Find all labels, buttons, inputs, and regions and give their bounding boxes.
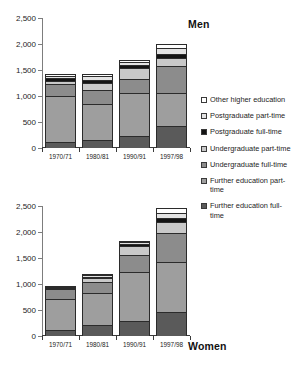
legend-item: Undergraduate full-time: [201, 160, 293, 169]
bar-segment: [119, 68, 149, 78]
y-tick: [38, 96, 43, 97]
y-tick: [38, 70, 43, 71]
plot-area-men: 05001,0001,5002,0002,5001970/711980/8119…: [42, 18, 190, 148]
bar-segment: [156, 233, 186, 262]
bar-segment: [45, 299, 75, 331]
legend-item: Further education part-time: [201, 176, 293, 194]
bar-segment: [119, 242, 149, 244]
chart-panel-women: 05001,0001,5002,0002,5001970/711980/8119…: [0, 196, 200, 374]
y-tick-label: 500: [23, 118, 36, 127]
bar-segment: [82, 140, 112, 148]
chart-figure: Men 05001,0001,5002,0002,5001970/711980/…: [0, 0, 293, 380]
bar-segment: [156, 208, 186, 213]
bar-segment: [156, 66, 186, 93]
bar-segment: [119, 65, 149, 68]
panel-title-men: Men: [188, 18, 210, 30]
bar-segment: [119, 255, 149, 272]
plot-area-women: 05001,0001,5002,0002,5001970/711980/8119…: [42, 206, 190, 336]
y-tick: [38, 258, 43, 259]
bar-segment: [45, 96, 75, 142]
legend-label: Postgraduate full-time: [210, 127, 282, 136]
x-tick-label: 1970/71: [49, 341, 72, 348]
y-tick-label: 2,500: [16, 202, 36, 211]
bar-segment: [119, 60, 149, 62]
bar-segment: [119, 321, 149, 336]
bar-segment: [82, 83, 112, 90]
x-tick-label: 1997/98: [160, 341, 183, 348]
bar-segment: [156, 93, 186, 126]
bar-segment: [156, 262, 186, 312]
bar-1997-98: [156, 206, 186, 336]
bar-segment: [119, 79, 149, 94]
legend-item: Undergraduate part-time: [201, 144, 293, 153]
bar-segment: [82, 104, 112, 140]
bar-segment: [156, 48, 186, 53]
legend-item: Postgraduate part-time: [201, 111, 293, 120]
legend-label: Other higher education: [210, 95, 285, 104]
bar-segment: [119, 272, 149, 321]
legend-swatch-icon: [201, 178, 207, 184]
bar-segment: [45, 84, 75, 96]
chart-legend: Other higher educationPostgraduate part-…: [201, 95, 293, 227]
bar-segment: [82, 278, 112, 282]
bar-1970-71: [45, 206, 75, 336]
bar-segment: [82, 74, 112, 76]
y-tick: [38, 232, 43, 233]
bar-segment: [45, 78, 75, 81]
y-tick: [38, 284, 43, 285]
x-tick-label: 1997/98: [160, 153, 183, 160]
y-tick: [38, 122, 43, 123]
bar-segment: [45, 330, 75, 336]
y-tick-label: 1,500: [16, 66, 36, 75]
legend-label: Undergraduate part-time: [210, 144, 291, 153]
bar-segment: [119, 241, 149, 242]
bar-1997-98: [156, 18, 186, 148]
legend-swatch-icon: [201, 129, 207, 135]
x-tick-label: 1980/81: [86, 153, 109, 160]
bar-segment: [82, 282, 112, 293]
y-tick-label: 2,500: [16, 14, 36, 23]
bar-1980-81: [82, 206, 112, 336]
x-tick-label: 1970/71: [49, 153, 72, 160]
bar-segment: [82, 274, 112, 275]
bar-segment: [156, 222, 186, 232]
legend-label: Undergraduate full-time: [210, 160, 287, 169]
bar-segment: [45, 289, 75, 298]
bar-segment: [82, 76, 112, 80]
y-axis-women: [42, 206, 43, 336]
bar-1990-91: [119, 206, 149, 336]
bar-segment: [119, 136, 149, 148]
legend-swatch-icon: [201, 97, 207, 103]
x-tick: [190, 148, 191, 152]
y-tick-label: 1,000: [16, 280, 36, 289]
x-tick-label: 1990/91: [123, 153, 146, 160]
x-tick: [116, 148, 117, 152]
y-tick: [38, 206, 43, 207]
bar-segment: [45, 74, 75, 76]
bar-segment: [119, 62, 149, 65]
bar-segment: [45, 286, 75, 287]
legend-label: Postgraduate part-time: [210, 111, 285, 120]
bar-1970-71: [45, 18, 75, 148]
x-tick: [79, 148, 80, 152]
y-tick-label: 1,000: [16, 92, 36, 101]
bar-segment: [45, 81, 75, 84]
x-tick: [153, 336, 154, 340]
bar-segment: [156, 213, 186, 218]
x-tick-label: 1990/91: [123, 341, 146, 348]
bar-segment: [156, 58, 186, 66]
bar-segment: [119, 246, 149, 255]
y-tick: [38, 310, 43, 311]
legend-swatch-icon: [201, 113, 207, 119]
y-tick: [38, 18, 43, 19]
legend-item: Other higher education: [201, 95, 293, 104]
bar-segment: [82, 277, 112, 278]
x-tick: [42, 148, 43, 152]
bar-segment: [156, 126, 186, 148]
bar-segment: [156, 312, 186, 336]
bar-segment: [156, 218, 186, 222]
y-tick-label: 1,500: [16, 254, 36, 263]
bar-segment: [45, 142, 75, 148]
y-tick-label: 2,000: [16, 40, 36, 49]
x-tick: [79, 336, 80, 340]
